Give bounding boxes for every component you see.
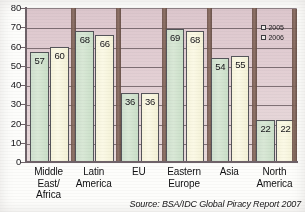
- y-axis-tick-label: 80: [0, 3, 21, 12]
- legend: 20052006: [261, 23, 284, 42]
- bar-2005: 36: [121, 93, 140, 162]
- bar-2005: 68: [75, 31, 94, 162]
- y-axis-tick-label: 20: [0, 119, 21, 128]
- category-label-line: Eastern: [162, 166, 207, 178]
- category-label: LatinAmerica: [71, 166, 116, 189]
- bar-value-label: 68: [76, 35, 93, 45]
- bar-group: 6866: [71, 8, 116, 162]
- bar-value-label: 22: [257, 124, 274, 134]
- y-axis-tick-label: 60: [0, 42, 21, 51]
- y-axis-tick-label: 30: [0, 99, 21, 108]
- legend-label: 2005: [268, 23, 284, 33]
- y-axis-tick-label: 10: [0, 138, 21, 147]
- legend-item: 2006: [261, 33, 284, 43]
- y-axis-tick-label: 70: [0, 22, 21, 31]
- category-label-line: East/: [26, 178, 71, 190]
- category-label: EasternEurope: [162, 166, 207, 189]
- category-label-line: America: [71, 178, 116, 190]
- bar-value-label: 66: [96, 39, 113, 49]
- y-axis-tick-label: 50: [0, 61, 21, 70]
- bar-value-label: 69: [167, 33, 184, 43]
- bar-2005: 22: [256, 120, 275, 162]
- y-axis-tick-label: 0: [0, 157, 21, 166]
- bar-2006: 68: [186, 31, 205, 162]
- bar-group: 6968: [162, 8, 207, 162]
- category-label: Asia: [207, 166, 252, 178]
- y-axis-tick-label: 40: [0, 80, 21, 89]
- y-axis-line: [25, 7, 27, 163]
- bar-value-label: 60: [51, 51, 68, 61]
- bar-value-label: 54: [212, 62, 229, 72]
- category-label-line: Africa: [26, 189, 71, 201]
- bar-2006: 60: [50, 47, 69, 163]
- category-label-line: Asia: [207, 166, 252, 178]
- bar-value-label: 36: [122, 97, 139, 107]
- category-label-line: North: [252, 166, 297, 178]
- category-label: MiddleEast/Africa: [26, 166, 71, 201]
- bar-2005: 69: [166, 29, 185, 162]
- bar-group: 3636: [116, 8, 161, 162]
- legend-swatch-icon: [261, 25, 266, 30]
- bar-value-label: 68: [187, 35, 204, 45]
- category-label-line: Latin: [71, 166, 116, 178]
- legend-swatch-icon: [261, 35, 266, 40]
- group-separator: [292, 9, 297, 163]
- category-label-line: EU: [116, 166, 161, 178]
- bar-value-label: 36: [142, 97, 159, 107]
- bar-2005: 54: [211, 58, 230, 162]
- category-label-line: Middle: [26, 166, 71, 178]
- bar-value-label: 55: [232, 60, 249, 70]
- piracy-rate-bar-chart: 01020304050607080 5760686636366968545522…: [0, 0, 305, 212]
- bar-2006: 66: [95, 35, 114, 162]
- bar-value-label: 57: [31, 56, 48, 66]
- bar-group: 5760: [26, 8, 71, 162]
- category-label: NorthAmerica: [252, 166, 297, 189]
- bar-2006: 36: [141, 93, 160, 162]
- legend-label: 2006: [268, 33, 284, 43]
- category-label-line: America: [252, 178, 297, 190]
- plot-area: 576068663636696854552222 20052006: [26, 8, 297, 162]
- bar-2006: 55: [231, 56, 250, 162]
- source-note: Source: BSA/IDC Global Piracy Report 200…: [130, 199, 301, 209]
- bar-group: 5455: [207, 8, 252, 162]
- x-axis-line: [25, 161, 298, 163]
- category-label: EU: [116, 166, 161, 178]
- legend-item: 2005: [261, 23, 284, 33]
- bar-2005: 57: [30, 52, 49, 162]
- category-label-line: Europe: [162, 178, 207, 190]
